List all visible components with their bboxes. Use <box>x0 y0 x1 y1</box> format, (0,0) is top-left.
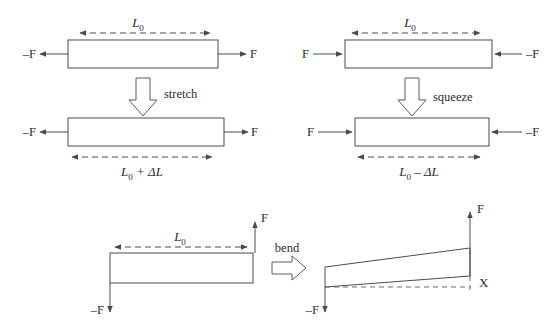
squeeze-before-force-right: –F <box>495 47 539 61</box>
stretch-operation-label: stretch <box>164 87 198 101</box>
stretch-before-length-label: L0 <box>131 15 144 33</box>
panel-bend: L0 F –F bend X F <box>90 202 489 317</box>
physics-deformation-figure: L0 –F F stretch –F F <box>0 0 553 333</box>
bend-after-force-up-label: F <box>477 202 484 216</box>
stretch-before-bar <box>68 40 218 68</box>
squeeze-after-force-left: F <box>307 125 352 139</box>
squeeze-down-block-arrow-icon <box>398 78 426 116</box>
stretch-before-force-right: F <box>218 47 257 61</box>
stretch-before-force-left-label: –F <box>22 47 36 61</box>
squeeze-after-force-left-label: F <box>307 125 314 139</box>
squeeze-before-force-left: F <box>302 47 342 61</box>
stretch-before-dimension: L0 <box>80 15 210 33</box>
bend-before-length-label: L0 <box>173 229 186 247</box>
squeeze-before-force-right-label: –F <box>525 47 539 61</box>
squeeze-before-force-left-label: F <box>302 47 309 61</box>
squeeze-before-length-label: L0 <box>403 15 416 33</box>
bend-after-force-up: F <box>470 202 484 276</box>
stretch-after-bar <box>68 118 224 146</box>
bend-before-dimension: L0 <box>115 229 247 247</box>
stretch-after-force-right-label: F <box>251 125 258 139</box>
stretch-before-force-right-label: F <box>250 47 257 61</box>
stretch-after-force-left-label: –F <box>22 125 36 139</box>
bend-before-force-down-label: –F <box>90 303 104 317</box>
squeeze-before-bar <box>345 40 492 68</box>
bend-after-bar <box>325 248 470 287</box>
bend-before-bar <box>110 253 253 283</box>
stretch-operation: stretch <box>129 78 198 116</box>
bend-before-force-up: F <box>255 211 268 253</box>
squeeze-before-dimension: L0 <box>352 15 480 33</box>
panel-stretch: L0 –F F stretch –F F <box>22 15 258 182</box>
squeeze-after-force-right-label: –F <box>525 125 539 139</box>
deformation-diagram-svg: L0 –F F stretch –F F <box>0 0 553 333</box>
stretch-after-force-right: F <box>224 125 258 139</box>
bend-right-block-arrow-icon <box>272 256 306 280</box>
bend-after-deflection-label: X <box>479 275 489 290</box>
squeeze-operation: squeeze <box>398 78 473 116</box>
bend-after-force-down-label: –F <box>305 303 319 317</box>
stretch-after-force-left: –F <box>22 125 68 139</box>
stretch-before-force-left: –F <box>22 47 68 61</box>
bend-operation-label: bend <box>275 241 300 255</box>
squeeze-operation-label: squeeze <box>433 90 473 104</box>
squeeze-after-bar <box>355 118 489 146</box>
bend-operation: bend <box>272 241 306 280</box>
bend-before-force-up-label: F <box>261 211 268 225</box>
squeeze-after-force-right: –F <box>492 125 539 139</box>
stretch-after-dimension: L0 + ΔL <box>72 157 212 182</box>
bend-before-force-down: –F <box>90 283 110 317</box>
stretch-after-length-label: L0 + ΔL <box>120 164 163 182</box>
squeeze-after-length-label: L0 – ΔL <box>398 164 439 182</box>
stretch-down-block-arrow-icon <box>129 78 157 116</box>
panel-squeeze: L0 F –F squeeze F –F <box>302 15 539 182</box>
bend-after-force-down: –F <box>305 287 325 317</box>
squeeze-after-dimension: L0 – ΔL <box>358 157 480 182</box>
